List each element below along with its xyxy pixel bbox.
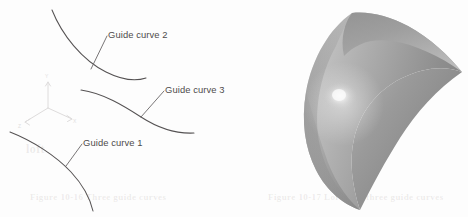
- guide-curve-1-leader: [66, 144, 82, 166]
- guide-curve-3-label: Guide curve 3: [165, 85, 225, 94]
- guide-curve-2-path: [52, 10, 146, 80]
- guide-curve-1-label: Guide curve 1: [83, 138, 143, 147]
- figure-container: loft surface Figure 10-16 Three guide cu…: [0, 0, 468, 217]
- guide-curve-3-path: [81, 90, 194, 133]
- guide-curve-2-leader: [91, 36, 107, 69]
- guide-curve-2-label: Guide curve 2: [108, 30, 168, 39]
- guide-curve-1-path: [10, 132, 93, 211]
- guide-curves-layer: [0, 0, 468, 217]
- guide-curve-3-leader: [141, 91, 164, 117]
